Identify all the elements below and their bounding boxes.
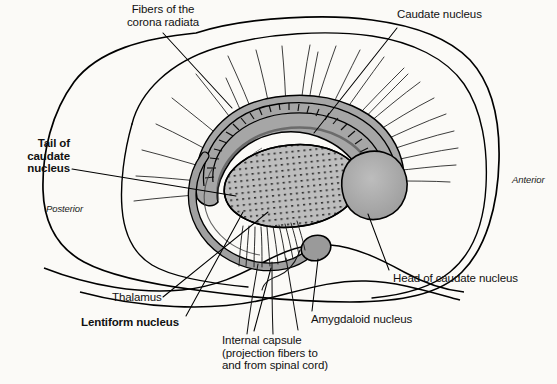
internal-capsule-fibers	[239, 221, 305, 334]
brain-anatomy-figure: Fibers of the corona radiata Caudate nuc…	[0, 0, 557, 384]
leader-head-of-caudate	[368, 214, 389, 270]
label-head-of-caudate-nucleus: Head of caudate nucleus	[393, 272, 518, 285]
leader-internal-capsule	[254, 268, 271, 331]
label-amygdaloid-nucleus: Amygdaloid nucleus	[311, 313, 412, 326]
label-internal-capsule: Internal capsule (projection fibers to a…	[222, 334, 328, 372]
head-of-caudate-structure	[342, 151, 407, 219]
label-lentiform-nucleus: Lentiform nucleus	[81, 316, 179, 329]
label-caudate-nucleus: Caudate nucleus	[397, 8, 482, 21]
leader-thalamus	[163, 212, 268, 297]
label-tail-of-caudate-nucleus: Tail of caudate nucleus	[0, 137, 70, 175]
label-posterior: Posterior	[46, 203, 83, 216]
leader-amygdaloid	[312, 259, 318, 311]
leader-corona-radiata	[163, 33, 232, 108]
label-corona-radiata: Fibers of the corona radiata	[98, 3, 228, 28]
label-anterior: Anterior	[512, 174, 544, 187]
label-thalamus: Thalamus	[112, 291, 162, 304]
